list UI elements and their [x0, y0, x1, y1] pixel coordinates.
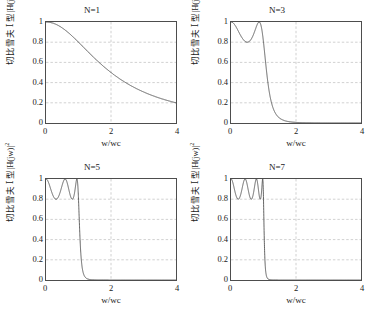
y-tick: 0.6	[17, 57, 43, 66]
y-axis-label-exponent: 2	[4, 143, 10, 146]
subplot-n1: N=1 切比雪夫 Ⅰ 型|H(jw)|2 1 0.8 0.6 0.4 0.2 0…	[0, 0, 184, 156]
x-axis-label-n7: w/wc	[230, 295, 362, 305]
x-tick: 2	[102, 126, 120, 136]
y-tick: 0.6	[202, 57, 228, 66]
y-axis-label-exponent: 2	[189, 143, 195, 146]
x-tick: 0	[221, 126, 239, 136]
x-tick: 4	[353, 283, 369, 293]
x-tick: 4	[168, 126, 186, 136]
x-tick: 4	[353, 126, 369, 136]
y-tick: 0.8	[202, 37, 228, 46]
y-tick: 0.4	[17, 235, 43, 244]
x-tick: 0	[221, 283, 239, 293]
x-tick: 2	[102, 283, 120, 293]
x-tick-labels-n3: 0 2 4	[230, 126, 362, 138]
plot-area-n3	[230, 21, 362, 124]
y-axis-label-text: 切比雪夫 Ⅰ 型|H(jw)|	[190, 146, 200, 222]
y-tick: 0.8	[17, 194, 43, 203]
y-tick: 1	[202, 174, 228, 183]
y-tick: 1	[17, 17, 43, 26]
subplot-n3: N=3 切比雪夫 Ⅰ 型|H(jw)|2 1 0.8 0.6 0.4 0.2 0…	[185, 0, 369, 156]
x-tick: 0	[36, 126, 54, 136]
y-tick: 0.6	[202, 214, 228, 223]
y-tick: 0.2	[17, 255, 43, 264]
x-axis-label-n3: w/wc	[230, 138, 362, 148]
plot-svg-n5	[46, 179, 176, 280]
plot-svg-n7	[231, 179, 361, 280]
x-tick-labels-n1: 0 2 4	[45, 126, 177, 138]
plot-area-n1	[45, 21, 177, 124]
plot-area-n7	[230, 178, 362, 281]
chebyshev-figure: N=1 切比雪夫 Ⅰ 型|H(jw)|2 1 0.8 0.6 0.4 0.2 0…	[0, 0, 369, 313]
plot-svg-n1	[46, 22, 176, 123]
y-tick: 1	[202, 17, 228, 26]
y-tick: 0.4	[202, 78, 228, 87]
subplot-n7: N=7 切比雪夫 Ⅰ 型|H(jw)|2 1 0.8 0.6 0.4 0.2 0…	[185, 157, 369, 313]
subplot-n5: N=5 切比雪夫 Ⅰ 型|H(jw)|2 1 0.8 0.6 0.4 0.2 0…	[0, 157, 184, 313]
y-tick-labels-n3: 1 0.8 0.6 0.4 0.2 0	[200, 0, 228, 146]
x-tick-labels-n7: 0 2 4	[230, 283, 362, 295]
y-tick: 0.2	[202, 255, 228, 264]
x-axis-label-n5: w/wc	[45, 295, 177, 305]
y-axis-label-text: 切比雪夫 Ⅰ 型|H(jw)|	[5, 0, 15, 65]
x-tick: 2	[287, 126, 305, 136]
y-axis-label-text: 切比雪夫 Ⅰ 型|H(jw)|	[5, 146, 15, 222]
y-tick: 1	[17, 174, 43, 183]
y-tick: 0.6	[17, 214, 43, 223]
plot-area-n5	[45, 178, 177, 281]
x-axis-label-n1: w/wc	[45, 138, 177, 148]
x-tick: 4	[168, 283, 186, 293]
x-tick: 0	[36, 283, 54, 293]
y-tick-labels-n5: 1 0.8 0.6 0.4 0.2 0	[15, 157, 43, 303]
y-tick: 0.8	[17, 37, 43, 46]
x-tick: 2	[287, 283, 305, 293]
y-axis-label-text: 切比雪夫 Ⅰ 型|H(jw)|	[190, 0, 200, 65]
y-tick: 0.8	[202, 194, 228, 203]
y-tick: 0.4	[202, 235, 228, 244]
y-tick-labels-n1: 1 0.8 0.6 0.4 0.2 0	[15, 0, 43, 146]
y-tick: 0.4	[17, 78, 43, 87]
y-tick: 0.2	[202, 98, 228, 107]
x-tick-labels-n5: 0 2 4	[45, 283, 177, 295]
y-tick: 0.2	[17, 98, 43, 107]
y-tick-labels-n7: 1 0.8 0.6 0.4 0.2 0	[200, 157, 228, 303]
plot-svg-n3	[231, 22, 361, 123]
